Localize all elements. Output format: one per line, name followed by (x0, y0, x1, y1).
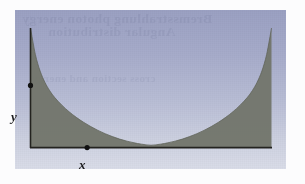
x-axis-point-marker (85, 145, 90, 150)
x-axis-label: x (79, 158, 86, 171)
chart-plot (0, 0, 305, 184)
figure-container: Bremsstrahlung photon energy Angular dis… (0, 0, 305, 184)
y-axis-point-marker (28, 83, 33, 88)
y-axis-label: y (11, 110, 17, 123)
area-under-curve (31, 28, 272, 148)
